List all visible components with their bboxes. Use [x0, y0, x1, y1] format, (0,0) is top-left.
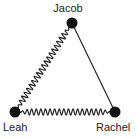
node-label-leah: Leah — [3, 121, 27, 133]
edge-jacob-leah — [17, 26, 70, 108]
node-leah[interactable] — [10, 107, 21, 118]
edge-leah-rachel — [19, 109, 111, 115]
diagram-canvas: Jacob Leah Rachel — [0, 0, 136, 138]
node-label-jacob: Jacob — [0, 2, 136, 14]
edge-jacob-rachel — [72, 23, 115, 112]
node-rachel[interactable] — [110, 107, 121, 118]
nodes-group — [10, 18, 121, 118]
edges-group — [17, 23, 115, 115]
graph-svg — [0, 0, 136, 138]
node-label-rachel: Rachel — [96, 121, 130, 133]
node-jacob[interactable] — [67, 18, 78, 29]
